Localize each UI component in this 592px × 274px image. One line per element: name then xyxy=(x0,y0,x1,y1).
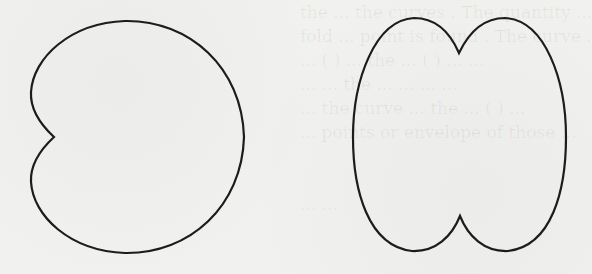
figure-page: the ... the curves . The quantity ... fo… xyxy=(0,0,592,274)
curves-figure xyxy=(0,0,592,274)
right-curve xyxy=(353,18,566,251)
left-curve xyxy=(31,21,244,253)
